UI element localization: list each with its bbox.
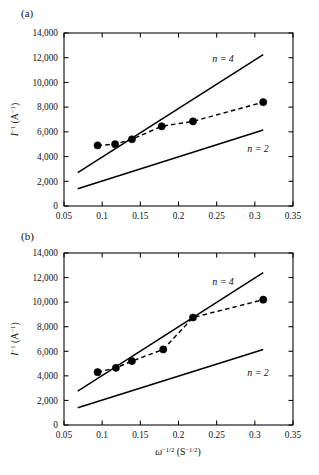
y-tick-label: 8,000 — [37, 102, 58, 112]
theory-line-n-4 — [78, 273, 263, 392]
x-tick-label: 0.1 — [96, 430, 108, 440]
y-tick-label: 4,000 — [37, 371, 58, 381]
x-tick-label: 0.05 — [56, 430, 73, 440]
theory-line-n-2 — [78, 349, 263, 407]
x-tick-label: 0.15 — [132, 430, 149, 440]
data-point — [158, 123, 165, 130]
x-tick-label: 0.35 — [285, 430, 302, 440]
x-tick-label: 0.35 — [285, 211, 302, 221]
experimental-fit-line — [98, 300, 264, 372]
y-tick-label: 12,000 — [32, 53, 58, 63]
y-axis-title: I−1 (A−1) — [9, 103, 21, 137]
y-tick-label: 2,000 — [37, 177, 58, 187]
y-tick-label: 6,000 — [37, 347, 58, 357]
y-tick-label: 2,000 — [37, 396, 58, 406]
y-tick-label: 14,000 — [32, 28, 58, 38]
x-axis-title: ω−1/2 (S−1/2) — [155, 446, 201, 458]
plot-frame — [64, 33, 293, 206]
data-point — [94, 142, 101, 149]
panel-a: (a) 0.050.10.150.20.250.30.3502,0004,000… — [0, 0, 319, 232]
plot-area-b: 0.050.10.150.20.250.30.3502,0004,0006,00… — [0, 228, 319, 475]
annotation-n4: n = 4 — [212, 276, 234, 287]
y-tick-label: 6,000 — [37, 127, 58, 137]
annotation-n2: n = 2 — [247, 367, 269, 378]
theory-line-n-4 — [78, 55, 263, 173]
x-tick-label: 0.3 — [249, 430, 261, 440]
x-tick-label: 0.25 — [209, 211, 226, 221]
x-tick-label: 0.25 — [209, 430, 226, 440]
x-tick-label: 0.2 — [173, 430, 185, 440]
x-tick-label: 0.2 — [173, 211, 185, 221]
data-point — [160, 346, 167, 353]
data-point — [260, 99, 267, 106]
data-point — [189, 118, 196, 125]
x-tick-label: 0.05 — [56, 211, 73, 221]
experimental-fit-line — [98, 102, 264, 145]
y-tick-label: 0 — [53, 201, 58, 211]
y-tick-label: 4,000 — [37, 152, 58, 162]
panel-b: (b) 0.050.10.150.20.250.30.3502,0004,000… — [0, 228, 319, 475]
plot-frame — [64, 253, 293, 425]
y-tick-label: 10,000 — [32, 78, 58, 88]
y-tick-label: 0 — [53, 420, 58, 430]
svg-text:I−1 (A−1): I−1 (A−1) — [9, 103, 21, 137]
plot-area-a: 0.050.10.150.20.250.30.3502,0004,0006,00… — [0, 0, 319, 232]
y-tick-label: 10,000 — [32, 297, 58, 307]
annotation-n2: n = 2 — [247, 143, 269, 154]
y-tick-label: 14,000 — [32, 248, 58, 258]
y-axis-title: I−1 (A−1) — [9, 322, 21, 356]
svg-text:I−1 (A−1): I−1 (A−1) — [9, 322, 21, 356]
y-tick-label: 8,000 — [37, 322, 58, 332]
x-tick-label: 0.15 — [132, 211, 149, 221]
x-tick-label: 0.1 — [96, 211, 108, 221]
x-tick-label: 0.3 — [249, 211, 261, 221]
annotation-n4: n = 4 — [212, 53, 234, 64]
data-point — [260, 296, 267, 303]
data-point — [94, 369, 101, 376]
y-tick-label: 12,000 — [32, 273, 58, 283]
theory-line-n-2 — [78, 130, 263, 189]
